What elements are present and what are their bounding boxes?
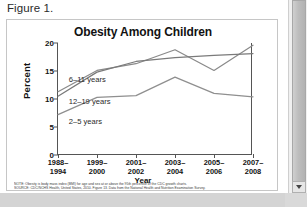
y-tick-label: 10 bbox=[45, 95, 54, 104]
series-label: 2–5 years bbox=[69, 117, 102, 126]
page-gutter bbox=[0, 193, 307, 207]
figure-footnotes: NOTE: Obesity is body mass index (BMI) f… bbox=[14, 182, 272, 191]
x-tick-label: 1988–1994 bbox=[48, 159, 69, 176]
y-axis-label: Percent bbox=[21, 63, 32, 99]
scrollbar-thumb[interactable] bbox=[292, 0, 306, 184]
x-tick-label-line: 1994 bbox=[48, 168, 69, 177]
y-tick-mark bbox=[54, 127, 58, 128]
y-tick-mark bbox=[54, 71, 58, 72]
x-tick-label: 2005–2006 bbox=[204, 159, 225, 176]
x-tick-label-line: 2004 bbox=[165, 168, 186, 177]
series-label: 6–11 years bbox=[69, 75, 106, 84]
series-line bbox=[58, 45, 253, 91]
y-tick-label: 20 bbox=[45, 39, 54, 48]
figure-source: SOURCE: CDC/NCHS Health, United States, … bbox=[14, 186, 272, 190]
y-tick-label: 15 bbox=[45, 67, 54, 76]
screenshot-root: Figure 1. Obesity Among Children Percent… bbox=[0, 0, 307, 207]
x-tick-label-line: 2002 bbox=[126, 168, 147, 177]
vertical-scrollbar[interactable] bbox=[288, 0, 307, 193]
x-tick-label-line: 2006 bbox=[204, 168, 225, 177]
figure-card: Obesity Among Children Percent 05101520 … bbox=[6, 19, 278, 191]
chevron-down-icon bbox=[296, 185, 302, 189]
x-tick-label: 2003–2004 bbox=[165, 159, 186, 176]
x-tick-label-line: 2000 bbox=[87, 168, 108, 177]
x-tick-label-line: 2008 bbox=[243, 168, 264, 177]
y-tick-mark bbox=[54, 43, 58, 44]
series-label: 12–19 years bbox=[69, 97, 111, 106]
x-tick-label: 2001–2002 bbox=[126, 159, 147, 176]
scroll-down-button[interactable] bbox=[292, 181, 306, 193]
figure-caption: Figure 1. bbox=[7, 2, 53, 14]
chart-title: Obesity Among Children bbox=[7, 25, 279, 39]
plot-area: 05101520 1988–19941999–20002001–20022003… bbox=[57, 43, 252, 155]
x-tick-label: 1999–2000 bbox=[87, 159, 108, 176]
x-tick-label: 2007–2008 bbox=[243, 159, 264, 176]
y-tick-mark bbox=[54, 99, 58, 100]
page-gutter-inner bbox=[0, 193, 285, 207]
